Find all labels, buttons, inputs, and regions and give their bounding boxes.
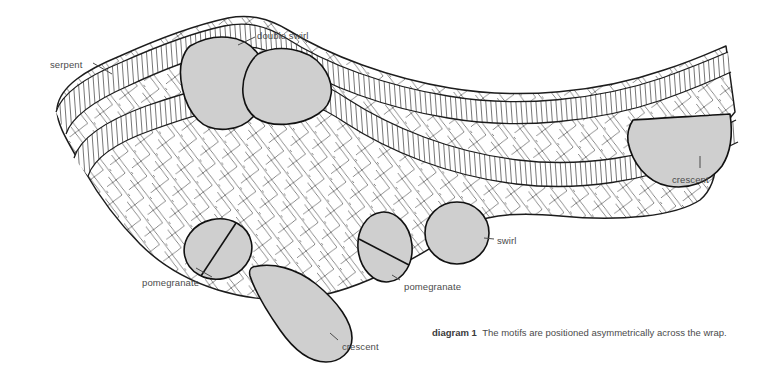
label-serpent: serpent [50,59,82,70]
label-pomegranate-mid: pomegranate [404,281,461,292]
motif-swirl [425,202,489,264]
label-swirl: swirl [497,235,517,246]
diagram-canvas [0,0,774,379]
label-crescent-right: crescent [672,174,709,185]
diagram-caption: diagram 1 The motifs are positioned asym… [432,327,727,338]
caption-text: The motifs are positioned asymmetrically… [482,327,726,338]
wrap-illustration [0,0,774,379]
label-pomegranate-left: pomegranate [142,277,199,288]
label-crescent-bottom: crescent [342,341,379,352]
caption-number: diagram 1 [432,327,477,338]
label-double-swirl: double swirl [257,30,308,41]
